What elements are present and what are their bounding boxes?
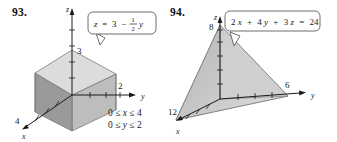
eq93-var: y [138, 19, 143, 29]
eq94-p1: + [247, 17, 252, 27]
z-axis-arrowhead [218, 16, 223, 23]
y-axis-label: y [140, 92, 145, 101]
equation-callout-93: z = 3 − 1 2 y [88, 12, 156, 45]
problem-94-figure: z y x 8 6 12 2 x + 4 y + [168, 0, 337, 142]
constraint-x-upper: ≤ 4 [127, 108, 142, 118]
tetra-right-face [220, 25, 288, 99]
eq94-t1v: x [237, 17, 242, 27]
problem-94: 94. [168, 0, 337, 142]
eq94-rhs: 24 [310, 17, 320, 27]
x-axis-label: x [175, 127, 180, 136]
z-tick-label-8: 8 [209, 22, 214, 32]
x-axis-label: x [21, 132, 26, 141]
problem-93-figure: z y x 3 2 4 z = 3 − [0, 0, 168, 142]
z-axis-label: z [213, 13, 218, 22]
constraint-y-lower: 0 ≤ [108, 120, 123, 130]
prism-diagram: z y x 3 2 4 z = 3 − [0, 0, 168, 142]
constraint-y-upper: ≤ 2 [127, 120, 142, 130]
z-axis-arrowhead [70, 8, 75, 15]
eq93-eq: = [102, 19, 107, 29]
constraints-93: 0 ≤ x ≤ 4 0 ≤ y ≤ 2 [108, 108, 142, 131]
equation-callout-94: 2 x + 4 y + 3 z = 24 [225, 11, 320, 46]
constraint-y: 0 ≤ y ≤ 2 [108, 120, 142, 132]
y-tick-label-2: 2 [118, 81, 123, 91]
eq94-t3v: z [289, 17, 294, 27]
x-tick-label-12: 12 [168, 107, 177, 117]
x-tick-label-4: 4 [15, 116, 20, 126]
constraint-x: 0 ≤ x ≤ 4 [108, 108, 142, 120]
y-axis-arrowhead [129, 93, 136, 98]
eq94-t3c: 3 [284, 17, 289, 27]
prism-solid [35, 50, 116, 131]
eq94-t2v: y [263, 17, 268, 27]
textbook-figure-page: 93. [0, 0, 337, 142]
eq93-frac-denominator: 2 [131, 25, 134, 32]
callout-tail [96, 33, 105, 45]
eq93-minus: − [121, 19, 126, 29]
y-axis-arrowhead [299, 91, 306, 96]
eq94-t2c: 4 [257, 17, 262, 27]
z-axis-label: z [65, 5, 70, 14]
z-tick-label-3: 3 [77, 46, 82, 56]
eq94-p2: + [273, 17, 278, 27]
problem-93: 93. [0, 0, 168, 142]
eq93-lhs: z [93, 19, 98, 29]
y-tick-label-6: 6 [285, 80, 290, 90]
constraint-x-lower: 0 ≤ [108, 108, 123, 118]
eq94-t1c: 2 [231, 17, 236, 27]
tetrahedron-diagram: z y x 8 6 12 2 x + 4 y + [168, 0, 337, 142]
eq94-eq: = [299, 17, 304, 27]
y-axis-label: y [310, 91, 315, 100]
eq93-const: 3 [112, 19, 117, 29]
eq93-frac-numerator: 1 [131, 16, 134, 23]
